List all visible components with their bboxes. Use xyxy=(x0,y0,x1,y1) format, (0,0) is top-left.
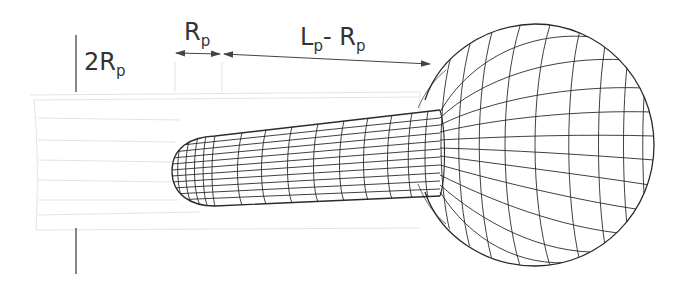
dimension-2rp: 2Rp xyxy=(76,35,125,274)
dimension-rp: Rp xyxy=(176,18,220,54)
sphere-mesh xyxy=(418,24,654,266)
label-rp: Rp xyxy=(184,18,210,50)
capsule-sphere-diagram: 2Rp Rp Lp- Rp xyxy=(0,0,682,295)
label-lp-minus-rp: Lp- Rp xyxy=(300,23,365,55)
dimension-lp-minus-rp: Lp- Rp xyxy=(224,23,430,64)
label-2rp: 2Rp xyxy=(84,48,125,80)
capsule-mesh xyxy=(172,110,445,206)
channel-outline xyxy=(30,62,420,230)
